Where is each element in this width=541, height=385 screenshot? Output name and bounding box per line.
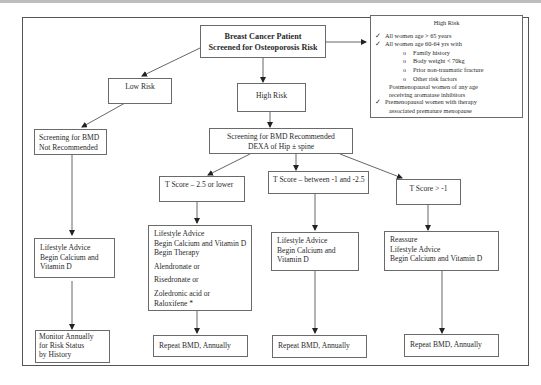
monitor-node: Monitor Annually for Risk Status by Hist… [35, 330, 110, 363]
root-node: Breast Cancer Patient Screened for Osteo… [200, 25, 326, 58]
tscore-high-node: T Score > -1 [396, 179, 461, 205]
criteria-postmenopausal: receiving aromatase inhibitors [375, 91, 518, 99]
criteria-subitem: oFamily history [375, 49, 518, 58]
circle-bullet-icon: o [403, 76, 413, 84]
circle-bullet-icon: o [403, 50, 413, 58]
criteria-item: ✓All women age 60-64 yrs with [375, 40, 518, 49]
check-icon: ✓ [375, 99, 385, 107]
screening-recommended-node: Screening for BMD Recommended DEXA of Hi… [209, 128, 353, 154]
check-icon: ✓ [375, 33, 385, 41]
criteria-item: ✓Premenopausal women with therapy [375, 98, 518, 107]
criteria-list: ✓All women age > 65 years ✓All women age… [375, 32, 518, 115]
low-risk-node: Low Risk [108, 78, 172, 104]
high-risk-node: High Risk [237, 83, 306, 112]
low-risk-lifestyle-node: Lifestyle Advice Begin Calcium and Vitam… [34, 238, 115, 278]
therapy-node: Lifestyle Advice Begin Calcium and Vitam… [148, 225, 252, 311]
circle-bullet-icon: o [403, 58, 413, 66]
criteria-subitem: oBody weight < 70kg [375, 57, 518, 66]
repeat-bmd-node-1: Repeat BMD, Annually [153, 335, 248, 357]
tscore-mid-node: T Score – between -1 and -2.5 [268, 171, 369, 194]
root-line-2: Screened for Osteoporosis Risk [206, 42, 320, 53]
criteria-subitem: oOther risk factors [375, 75, 518, 84]
high-risk-criteria-node: High Risk ✓All women age > 65 years ✓All… [370, 15, 523, 118]
repeat-bmd-node-3: Repeat BMD, Annually [404, 334, 499, 357]
repeat-bmd-node-2: Repeat BMD, Annually [272, 335, 367, 358]
circle-bullet-icon: o [403, 67, 413, 75]
criteria-item: ✓All women age > 65 years [375, 32, 518, 41]
mid-lifestyle-node: Lifestyle Advice Begin Calcium and Vitam… [271, 232, 359, 271]
criteria-postmenopausal: Postmenopausal women of any age [375, 83, 518, 91]
criteria-premenopausal: associated premature menopause [375, 107, 518, 115]
tscore-low-node: T Score – 2.5 or lower [159, 176, 245, 202]
root-line-1: Breast Cancer Patient [206, 31, 320, 42]
screening-not-recommended-node: Screening for BMD Not Recommended [34, 129, 107, 155]
criteria-subitem: oPrior non-traumatic fracture [375, 66, 518, 75]
check-icon: ✓ [375, 41, 385, 49]
reassure-node: Reassure Lifestyle Advice Begin Calcium … [384, 231, 499, 271]
criteria-title: High Risk [375, 19, 518, 27]
